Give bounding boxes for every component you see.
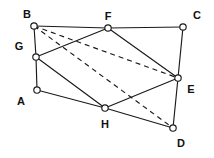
vertex-h <box>102 105 108 111</box>
edge-h-e <box>105 78 178 108</box>
vertex-label-e: E <box>187 84 194 95</box>
vertex-b <box>31 23 37 29</box>
edge-b-g <box>34 26 36 57</box>
vertex-d <box>170 125 176 131</box>
edge-g-f <box>36 28 108 57</box>
vertex-label-a: A <box>17 96 25 107</box>
vertex-c <box>180 24 186 30</box>
edge-g-h <box>36 57 105 108</box>
edge-b-d <box>34 26 173 128</box>
vertex-g <box>33 54 39 60</box>
edge-a-h <box>37 90 105 108</box>
vertex-label-b: B <box>23 9 31 20</box>
edge-c-e <box>178 27 183 78</box>
vertex-label-h: H <box>101 119 109 130</box>
vertices-group <box>31 23 186 131</box>
vertex-f <box>105 25 111 31</box>
edge-g-a <box>36 57 37 90</box>
vertex-label-g: G <box>15 41 24 52</box>
edge-e-d <box>173 78 178 128</box>
edge-f-e <box>108 28 178 78</box>
edge-f-c <box>108 27 183 28</box>
dashed-edges-group <box>34 26 178 128</box>
vertex-e <box>175 75 181 81</box>
edge-b-f <box>34 26 108 28</box>
solid-edges-group <box>34 26 183 128</box>
edge-b-e <box>34 26 178 78</box>
geometry-diagram: ABCDEFGH <box>0 0 214 158</box>
vertex-label-f: F <box>105 11 112 22</box>
diagram-canvas <box>0 0 214 158</box>
edge-h-d <box>105 108 173 128</box>
vertex-label-d: D <box>177 138 185 149</box>
vertex-label-c: C <box>193 10 201 21</box>
vertex-a <box>34 87 40 93</box>
